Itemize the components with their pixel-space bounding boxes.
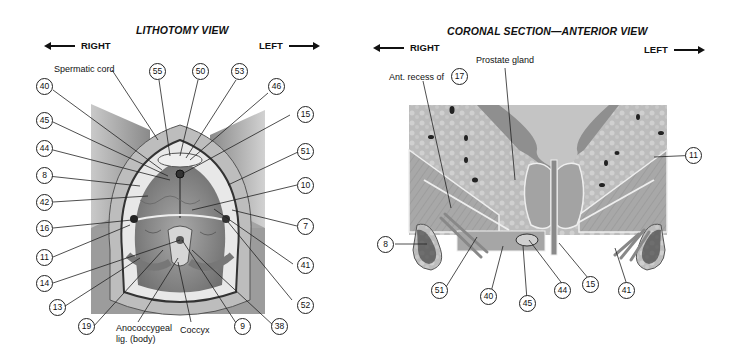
callout-19: 19 xyxy=(78,318,95,335)
callout-41: 41 xyxy=(618,282,635,299)
callout-45: 45 xyxy=(36,112,53,129)
callout-14: 14 xyxy=(36,275,53,292)
label-anococcygeal-line2: lig. (body) xyxy=(116,334,156,344)
callout-17: 17 xyxy=(451,68,468,85)
callout-52: 52 xyxy=(297,297,314,314)
callout-46: 46 xyxy=(268,78,285,95)
callout-55: 55 xyxy=(149,63,166,80)
callout-42: 42 xyxy=(36,194,53,211)
callout-51: 51 xyxy=(297,143,314,160)
callout-44: 44 xyxy=(36,140,53,157)
callout-11: 11 xyxy=(685,147,702,164)
callout-7: 7 xyxy=(297,218,314,235)
callout-53: 53 xyxy=(231,63,248,80)
callout-13: 13 xyxy=(49,299,66,316)
coronal-section-panel: CORONAL SECTION—ANTERIOR VIEW RIGHT LEFT xyxy=(369,0,738,361)
callout-10: 10 xyxy=(297,177,314,194)
callout-15: 15 xyxy=(297,106,314,123)
callout-16: 16 xyxy=(36,220,53,237)
callout-45: 45 xyxy=(519,295,536,312)
callout-8: 8 xyxy=(36,167,53,184)
callout-41: 41 xyxy=(297,257,314,274)
label-anococcygeal-line1: Anococcygeal xyxy=(116,323,172,333)
callout-11: 11 xyxy=(36,249,53,266)
callout-38: 38 xyxy=(271,318,288,335)
callout-9: 9 xyxy=(234,318,251,335)
callout-40: 40 xyxy=(36,78,53,95)
lithotomy-view-panel: LITHOTOMY VIEW RIGHT LEFT xyxy=(0,0,369,361)
label-prostate-gland: Prostate gland xyxy=(476,55,534,65)
callout-8: 8 xyxy=(377,236,394,253)
callout-51: 51 xyxy=(431,282,448,299)
callout-50: 50 xyxy=(192,63,209,80)
label-spermatic-cord: Spermatic cord xyxy=(54,64,115,74)
leader-lines xyxy=(369,0,738,361)
label-ant-recess: Ant. recess of xyxy=(389,72,444,82)
label-coccyx: Coccyx xyxy=(180,325,210,335)
callout-40: 40 xyxy=(480,288,497,305)
callout-44: 44 xyxy=(554,282,571,299)
callout-15: 15 xyxy=(582,276,599,293)
